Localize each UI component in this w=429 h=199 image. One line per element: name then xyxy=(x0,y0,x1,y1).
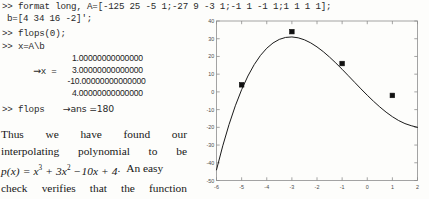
console-flops-answer: →ans =180 xyxy=(63,103,114,114)
solution-vector: 1.00000000000000 3.00000000000000 -10.00… xyxy=(72,53,146,99)
x-tick-label: 0 xyxy=(366,184,369,190)
word: found xyxy=(124,126,151,143)
y-tick-label: -40 xyxy=(207,160,215,166)
y-tick-label: -30 xyxy=(207,142,215,148)
data-point-marker xyxy=(390,93,395,98)
y-tick-label: -20 xyxy=(207,124,215,130)
word: check xyxy=(1,180,28,197)
paragraph-line-1: Thus we have found our xyxy=(1,126,187,143)
body-paragraph: Thus we have found our interpolating pol… xyxy=(1,126,187,198)
word: polynomial xyxy=(78,143,130,160)
console-line-flops-query: >> flops xyxy=(2,104,45,115)
formula-term-2: + 3x xyxy=(45,165,67,177)
formula-term-1-exponent: 3 xyxy=(39,164,43,172)
y-tick-label: -50 xyxy=(207,178,215,184)
word: function xyxy=(149,180,187,197)
paragraph-line-4: check verifies that the function xyxy=(1,180,187,197)
formula-term-3: −10x + 4 xyxy=(74,165,118,177)
paragraph-line-3-formula: p(x) = x3 + 3x2 −10x + 4. An easy xyxy=(1,160,187,180)
y-tick-label: 20 xyxy=(208,53,214,59)
word: be xyxy=(176,143,187,160)
polynomial-formula: p(x) = x3 + 3x2 −10x + 4 xyxy=(1,160,118,180)
paragraph-line-2: interpolating polynomial to be xyxy=(1,143,187,160)
word: to xyxy=(149,143,158,160)
formula-tail-text: An easy xyxy=(126,160,163,180)
matlab-plot-figure: -6-5-4-3-2-1012403020100-10-20-30-40-50 xyxy=(196,10,429,199)
console-line-b-vector: b=[4 34 16 -2]'; xyxy=(7,13,92,24)
word: interpolating xyxy=(1,143,59,160)
y-tick-label: 10 xyxy=(208,71,214,77)
word: our xyxy=(172,126,187,143)
solution-value-3: -10.00000000000000 xyxy=(68,76,146,88)
arrow-annotation-icon: → xyxy=(33,65,41,76)
word: that xyxy=(90,180,107,197)
word: have xyxy=(80,126,102,143)
textbook-page: >> format long, A=[-125 25 -5 1;-27 9 -3… xyxy=(0,0,429,199)
data-point-marker xyxy=(290,29,295,34)
word: we xyxy=(45,126,58,143)
formula-period: . xyxy=(118,160,121,180)
word: verifies xyxy=(42,180,76,197)
word: Thus xyxy=(1,126,24,143)
console-line-flops-reset: >> flops(0); xyxy=(2,28,66,39)
x-equals-label: x = xyxy=(41,66,57,77)
x-tick-label: -3 xyxy=(289,184,294,190)
y-tick-label: 0 xyxy=(211,89,214,95)
y-tick-label: -10 xyxy=(207,107,215,113)
word: the xyxy=(121,180,135,197)
polynomial-curve xyxy=(217,37,418,170)
solution-value-4: 4.00000000000000 xyxy=(72,88,146,100)
plot-frame xyxy=(217,21,418,181)
x-tick-label: 1 xyxy=(391,184,394,190)
solution-value-2: 3.00000000000000 xyxy=(72,65,146,77)
data-point-marker xyxy=(340,61,345,66)
x-tick-label: -6 xyxy=(214,184,219,190)
interpolating-polynomial-chart: -6-5-4-3-2-1012403020100-10-20-30-40-50 xyxy=(196,10,429,199)
y-tick-label: 30 xyxy=(208,36,214,42)
data-point-marker xyxy=(239,83,244,88)
x-tick-label: -2 xyxy=(315,184,320,190)
solution-value-1: 1.00000000000000 xyxy=(72,53,146,65)
x-tick-label: -5 xyxy=(239,184,244,190)
y-tick-label: 40 xyxy=(208,18,214,24)
console-answer-label-row: →x = xyxy=(1,54,57,88)
formula-lhs: p(x) = xyxy=(1,165,30,177)
x-tick-label: -1 xyxy=(340,184,345,190)
x-tick-label: 2 xyxy=(416,184,419,190)
formula-term-2-exponent: 2 xyxy=(67,164,71,172)
x-tick-label: -4 xyxy=(264,184,269,190)
console-line-solve: >> x=A\b xyxy=(2,41,45,52)
